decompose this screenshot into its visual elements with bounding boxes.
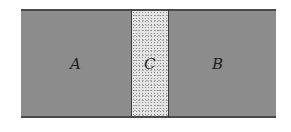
label-a: A <box>70 57 81 72</box>
slab-diagram: A C B <box>0 0 291 132</box>
label-b: B <box>212 57 223 72</box>
label-c: C <box>144 57 155 72</box>
boundary-c-b <box>168 9 169 118</box>
boundary-a-c <box>131 9 132 118</box>
